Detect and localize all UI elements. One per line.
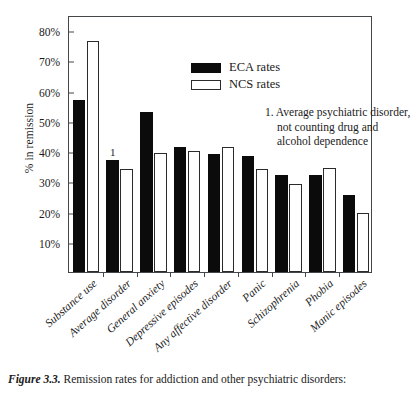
y-tick-label-70: 70% <box>39 56 69 68</box>
bar-ncs-7 <box>323 168 336 272</box>
bar-ncs-3 <box>188 151 201 272</box>
chart-legend: ECA rates NCS rates <box>191 59 280 93</box>
legend-item-ncs: NCS rates <box>191 76 280 93</box>
y-tick-label-10: 10% <box>39 238 69 250</box>
legend-label-ncs: NCS rates <box>229 76 280 93</box>
bar-eca-6 <box>275 175 288 272</box>
bar-eca-3 <box>174 147 187 272</box>
y-tick-mark <box>69 32 74 33</box>
y-tick-label-20: 20% <box>39 208 69 220</box>
caption-text: Remission rates for addiction and other … <box>64 373 347 385</box>
chart-annotation: 1. Average psychiatric disorder, not cou… <box>265 105 415 149</box>
legend-label-eca: ECA rates <box>229 59 280 76</box>
y-tick-mark <box>69 62 74 63</box>
bar-eca-1 <box>106 160 119 272</box>
bar-eca-7 <box>309 175 322 272</box>
y-tick-label-50: 50% <box>39 117 69 129</box>
y-axis-title: % in remission <box>23 68 35 208</box>
bar-ncs-0 <box>87 41 100 272</box>
x-axis-label-5: Panic <box>240 277 268 304</box>
bar-eca-0 <box>73 100 86 272</box>
bar-ncs-2 <box>154 153 167 272</box>
y-tick-label-80: 80% <box>39 26 69 38</box>
legend-item-eca: ECA rates <box>191 59 280 76</box>
legend-swatch-eca-icon <box>191 63 221 73</box>
y-tick-label-30: 30% <box>39 177 69 189</box>
bar-eca-5 <box>242 156 255 272</box>
y-tick-label-40: 40% <box>39 147 69 159</box>
bar-ncs-5 <box>256 169 269 272</box>
bar-ncs-4 <box>222 147 235 272</box>
annotation-line-1: 1. Average psychiatric disorder, <box>265 105 415 120</box>
bar-eca-4 <box>208 154 221 272</box>
bar-eca-2 <box>140 112 153 272</box>
legend-swatch-ncs-icon <box>191 80 221 90</box>
bar-ncs-8 <box>357 213 370 272</box>
annotation-line-2: not counting drug and <box>265 120 415 135</box>
bar-ncs-6 <box>289 184 302 272</box>
y-tick-mark <box>69 92 74 93</box>
bar-eca-8 <box>343 195 356 272</box>
y-tick-label-60: 60% <box>39 87 69 99</box>
plot-area: 10%20%30%40%50%60%70%80% 1 ECA rates NCS… <box>68 16 372 273</box>
caption-label: Figure 3.3. <box>8 373 61 385</box>
figure-caption: Figure 3.3. Remission rates for addictio… <box>8 372 380 386</box>
annotation-line-3: alcohol dependence <box>265 134 415 149</box>
bar-footnote-marker: 1 <box>110 146 116 158</box>
bar-ncs-1 <box>120 169 133 272</box>
x-axis-labels: Substance useAverage disorderGeneral anx… <box>68 273 372 361</box>
